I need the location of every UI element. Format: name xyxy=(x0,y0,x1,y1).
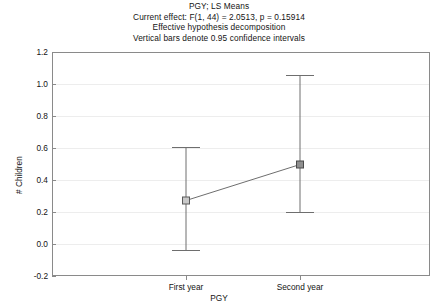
data-point-first-year xyxy=(183,197,190,204)
series-line xyxy=(186,165,300,201)
errorbar-second-year xyxy=(286,76,314,213)
series-layer xyxy=(0,0,438,308)
data-point-second-year xyxy=(297,161,304,168)
chart-container: PGY; LS Means Current effect: F(1, 44) =… xyxy=(0,0,438,308)
